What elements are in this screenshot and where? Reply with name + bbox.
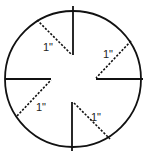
label-top-right: 1" <box>103 48 113 60</box>
label-top-left: 1" <box>43 41 53 53</box>
solid-cuts <box>5 6 143 151</box>
label-bottom-left: 1" <box>36 101 46 113</box>
circle-cut-diagram: 1"1"1"1" <box>0 0 145 161</box>
label-bottom-right: 1" <box>91 111 101 123</box>
dimension-labels: 1"1"1"1" <box>36 41 113 123</box>
top-right-dashed <box>96 41 131 78</box>
